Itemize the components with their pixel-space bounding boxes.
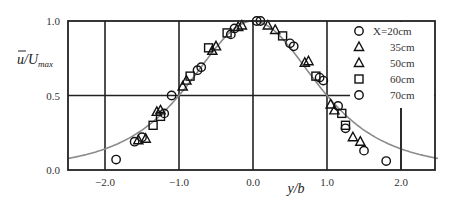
x-tick-label: 0.0 (246, 176, 260, 188)
legend: X=20cm35cm50cm60cm70cm (350, 22, 434, 108)
chart-canvas: X=20cm35cm50cm60cm70cm−2.0−1.00.01.02.00… (0, 0, 455, 205)
y-tick-label: 1.0 (46, 15, 60, 27)
x-tick-label: −1.0 (169, 176, 189, 188)
circle-marker (360, 146, 368, 154)
y-axis-label: u/Umax (17, 52, 53, 69)
y-tick-label: 0.5 (46, 90, 60, 102)
x-axis-label: y/b (285, 181, 304, 196)
series-x20cm (112, 17, 391, 165)
legend-label: X=20cm (373, 25, 412, 37)
x-tick-label: −2.0 (95, 176, 115, 188)
x-tick-label: 2.0 (394, 176, 408, 188)
circle-marker (382, 157, 390, 165)
series-70cm (130, 17, 368, 155)
series-35cm (134, 20, 358, 143)
legend-label: 35cm (390, 41, 415, 53)
y-tick-label: 0.0 (46, 164, 60, 176)
circle-marker (112, 155, 120, 163)
x-tick-label: 1.0 (320, 176, 334, 188)
legend-label: 70cm (390, 89, 415, 101)
circle-marker (341, 124, 349, 132)
legend-label: 60cm (390, 73, 415, 85)
legend-label: 50cm (390, 57, 415, 69)
triangle-marker (348, 132, 357, 141)
